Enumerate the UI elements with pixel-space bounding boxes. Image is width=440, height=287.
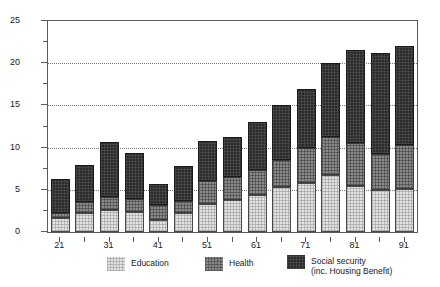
bar-segment-health-46	[174, 201, 193, 214]
bar-21	[51, 179, 70, 232]
y-tick-label-5: 5	[15, 184, 20, 193]
bar-segment-education-81	[346, 186, 365, 232]
y-tick-label-0: 0	[15, 227, 20, 236]
bar-segment-health-26	[75, 202, 94, 214]
legend-label-health: Health	[229, 257, 254, 268]
bar-segment-social-26	[75, 165, 94, 202]
bar-segment-health-61	[248, 170, 267, 194]
bar-segment-social-46	[174, 166, 193, 201]
bar-61	[248, 122, 267, 232]
x-tick-mark-76	[330, 237, 331, 242]
bar-31	[100, 142, 119, 232]
bar-51	[198, 141, 217, 232]
bar-36	[125, 153, 144, 232]
bar-segment-health-41	[149, 205, 168, 220]
bar-segment-health-86	[371, 154, 390, 190]
x-tick-label-31: 31	[103, 240, 113, 250]
bar-segment-social-81	[346, 50, 365, 143]
bar-segment-education-36	[125, 212, 144, 232]
x-tick-label-81: 81	[349, 240, 359, 250]
bar-segment-education-46	[174, 213, 193, 232]
bar-segment-social-86	[371, 53, 390, 153]
bar-41	[149, 184, 168, 232]
x-axis: 2131415161718191	[47, 236, 418, 254]
bar-46	[174, 166, 193, 232]
y-tick-label-15: 15	[10, 100, 20, 109]
x-tick-mark-36	[133, 237, 134, 242]
plot-inner	[48, 21, 417, 232]
x-tick-label-41: 41	[153, 240, 163, 250]
legend-item-health: Health	[205, 257, 254, 271]
bar-segment-education-56	[223, 200, 242, 232]
bar-segment-health-76	[321, 137, 340, 175]
x-tick-label-21: 21	[54, 240, 64, 250]
bar-segment-social-66	[272, 105, 291, 160]
legend-label-education: Education	[131, 257, 169, 268]
chart-legend: Education Health Social security (inc. H…	[47, 255, 418, 285]
bar-segment-education-26	[75, 213, 94, 232]
x-tick-mark-56	[232, 237, 233, 242]
bar-66	[272, 105, 291, 232]
x-tick-label-71: 71	[300, 240, 310, 250]
bar-segment-social-91	[395, 46, 414, 145]
bar-26	[75, 164, 94, 232]
y-tick-label-25: 25	[10, 16, 20, 25]
x-tick-mark-26	[84, 237, 85, 242]
bar-segment-social-71	[297, 89, 316, 148]
bar-91	[395, 46, 414, 232]
x-tick-mark-46	[182, 237, 183, 242]
bar-segment-social-36	[125, 153, 144, 199]
bar-56	[223, 137, 242, 232]
x-tick-mark-66	[281, 237, 282, 242]
bar-segment-education-91	[395, 189, 414, 232]
bar-segment-health-31	[100, 197, 119, 211]
bar-segment-health-71	[297, 148, 316, 183]
bar-segment-social-31	[100, 142, 119, 197]
plot-area	[47, 20, 418, 233]
bar-segment-health-21	[51, 213, 70, 217]
bar-segment-education-86	[371, 190, 390, 232]
y-tick-label-10: 10	[10, 142, 20, 151]
legend-item-social-security: Social security (inc. Housing Benefit)	[287, 255, 392, 276]
education-swatch	[107, 257, 125, 271]
bar-segment-education-31	[100, 210, 119, 232]
stacked-bar-chart: 0510152025 2131415161718191 Education He…	[0, 0, 440, 287]
x-tick-label-91: 91	[399, 240, 409, 250]
x-tick-label-61: 61	[251, 240, 261, 250]
bar-segment-education-71	[297, 183, 316, 232]
bar-segment-health-36	[125, 199, 144, 212]
bar-segment-health-56	[223, 177, 242, 200]
legend-item-education: Education	[107, 257, 169, 271]
bar-segment-health-81	[346, 143, 365, 187]
bar-segment-social-21	[51, 179, 70, 214]
bar-segment-health-66	[272, 160, 291, 187]
bar-segment-social-51	[198, 141, 217, 181]
bar-segment-education-76	[321, 175, 340, 232]
bar-76	[321, 63, 340, 232]
bar-segment-education-51	[198, 204, 217, 232]
x-tick-mark-86	[379, 237, 380, 242]
bar-segment-social-61	[248, 122, 267, 170]
bar-segment-social-56	[223, 137, 242, 178]
bar-segment-health-51	[198, 181, 217, 205]
legend-label-social-security: Social security (inc. Housing Benefit)	[311, 255, 392, 276]
bar-71	[297, 89, 316, 232]
y-axis: 0510152025	[0, 0, 47, 253]
x-tick-label-51: 51	[202, 240, 212, 250]
bar-81	[346, 50, 365, 232]
bar-segment-education-66	[272, 187, 291, 232]
bar-segment-education-61	[248, 195, 267, 232]
social-security-swatch	[287, 255, 305, 269]
bar-segment-social-41	[149, 184, 168, 205]
bar-segment-social-76	[321, 63, 340, 137]
y-tick-label-20: 20	[10, 58, 20, 67]
bar-segment-education-21	[51, 218, 70, 232]
bar-segment-education-41	[149, 220, 168, 232]
bar-86	[371, 53, 390, 232]
bar-segment-health-91	[395, 145, 414, 189]
health-swatch	[205, 257, 223, 271]
